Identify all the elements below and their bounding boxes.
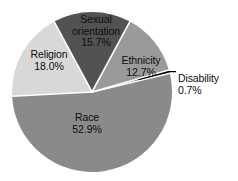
slice-label-race-value: 52.9%: [56, 124, 118, 136]
slice-label-ethnicity-value: 12.7%: [110, 67, 172, 79]
slice-label-disability: Disability 0.7%: [178, 73, 236, 96]
slice-label-race-name: Race: [56, 112, 118, 124]
slice-label-sexual-orientation-value: 15.7%: [60, 37, 132, 49]
slice-label-sexual-orientation-name: Sexual orientation: [60, 14, 132, 37]
slice-label-religion-value: 18.0%: [18, 61, 80, 73]
slice-label-religion-name: Religion: [18, 49, 80, 61]
slice-label-religion: Religion 18.0%: [18, 49, 80, 72]
slice-label-ethnicity-name: Ethnicity: [110, 55, 172, 67]
pie-chart: Sexual orientation 15.7% Religion 18.0% …: [0, 0, 238, 181]
slice-label-disability-name: Disability: [178, 73, 236, 85]
slice-label-disability-value: 0.7%: [178, 85, 236, 97]
slice-label-race: Race 52.9%: [56, 112, 118, 135]
slice-label-sexual-orientation: Sexual orientation 15.7%: [60, 14, 132, 49]
slice-label-ethnicity: Ethnicity 12.7%: [110, 55, 172, 78]
